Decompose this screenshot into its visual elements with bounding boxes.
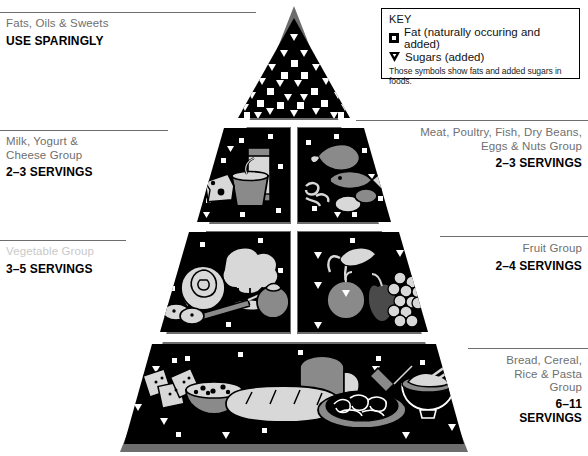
leader-line-vegetable xyxy=(0,240,126,241)
label-group-name-line2: Eggs & Nuts Group xyxy=(332,140,582,154)
label-meat-group: Meat, Poultry, Fish, Dry Beans, Eggs & N… xyxy=(332,126,582,170)
leader-line-fruit xyxy=(440,236,588,237)
cheese-wedge-icon xyxy=(205,174,234,202)
label-servings: 2–4 SERVINGS xyxy=(402,259,582,273)
tier-milk xyxy=(197,128,290,222)
food-guide-pyramid: Fats, Oils & Sweets USE SPARINGLY Milk, … xyxy=(0,0,588,456)
label-group-name-line1: Milk, Yogurt & xyxy=(6,135,93,149)
label-group-name-line1: Meat, Poultry, Fish, Dry Beans, xyxy=(332,126,582,140)
label-group-name: Vegetable Group xyxy=(6,245,94,259)
leader-line-milk xyxy=(0,130,168,131)
label-servings: 2–3 SERVINGS xyxy=(332,156,582,170)
label-vegetable-group: Vegetable Group 3–5 SERVINGS xyxy=(6,245,94,276)
fat-symbol-icon xyxy=(389,33,399,43)
label-group-name-line3: Group xyxy=(422,381,582,395)
tier-vegetable xyxy=(160,232,290,332)
tier-bread xyxy=(124,344,470,444)
label-group-name: Fruit Group xyxy=(402,242,582,256)
key-row-fat: Fat (naturally occuring and added) xyxy=(389,26,573,50)
key-sugar-label: Sugars (added) xyxy=(405,51,484,63)
key-heading: KEY xyxy=(389,13,573,25)
label-bread-group: Bread, Cereal, Rice & Pasta Group 6–11 S… xyxy=(422,354,582,425)
label-group-name-line1: Bread, Cereal, xyxy=(422,354,582,368)
label-servings-line1: 6–11 xyxy=(422,397,582,411)
leader-line-meat xyxy=(356,120,588,121)
label-servings: 2–3 SERVINGS xyxy=(6,165,93,179)
leader-line-fats xyxy=(0,12,256,13)
sugar-symbol-icon xyxy=(389,52,400,62)
label-milk-yogurt-cheese: Milk, Yogurt & Cheese Group 2–3 SERVINGS xyxy=(6,135,93,179)
lettuce-icon xyxy=(181,266,225,310)
leader-line-bread xyxy=(468,348,588,349)
label-servings-line2: SERVINGS xyxy=(422,411,582,425)
label-group-name: Fats, Oils & Sweets xyxy=(6,17,109,31)
label-fats-oils-sweets: Fats, Oils & Sweets USE SPARINGLY xyxy=(6,17,109,48)
label-fruit-group: Fruit Group 2–4 SERVINGS xyxy=(402,242,582,273)
label-servings: 3–5 SERVINGS xyxy=(6,262,94,276)
key-row-sugars: Sugars (added) xyxy=(389,51,573,63)
label-group-name-line2: Rice & Pasta xyxy=(422,368,582,382)
tier-apex xyxy=(238,18,350,119)
key-fat-label: Fat (naturally occuring and added) xyxy=(404,26,573,50)
key-note: Those symbols show fats and added sugars… xyxy=(389,66,573,86)
label-servings: USE SPARINGLY xyxy=(6,34,109,48)
key-legend-box: KEY Fat (naturally occuring and added) S… xyxy=(381,8,580,79)
label-group-name-line2: Cheese Group xyxy=(6,149,93,163)
